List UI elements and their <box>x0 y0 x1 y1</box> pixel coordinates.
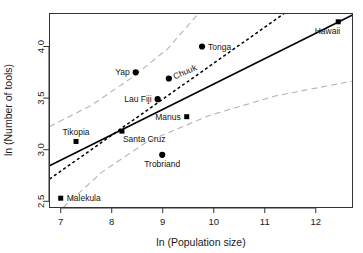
point-label-yap: Yap <box>115 67 130 77</box>
y-tick-label-3.0: 3.0 <box>35 143 46 156</box>
data-point-malekula <box>58 196 63 201</box>
data-point-trobriand <box>159 152 165 158</box>
data-point-chuuk <box>166 75 172 81</box>
x-tick-label-8: 8 <box>109 216 114 227</box>
y-axis-title: ln (Number of tools) <box>2 64 14 156</box>
data-point-manus <box>184 114 189 119</box>
x-tick-label-12: 12 <box>310 216 321 227</box>
data-point-tonga <box>199 43 205 49</box>
x-tick-label-9: 9 <box>160 216 165 227</box>
point-label-santa-cruz: Santa Cruz <box>123 134 166 144</box>
y-tick-label-2.5: 2.5 <box>35 195 46 208</box>
y-tick-label-3.5: 3.5 <box>35 92 46 105</box>
point-label-tikopia: Tikopia <box>62 127 89 137</box>
data-point-tikopia <box>74 139 79 144</box>
point-label-hawaii: Hawaii <box>315 26 341 36</box>
data-point-hawaii <box>336 19 341 24</box>
point-label-trobriand: Trobriand <box>144 159 180 169</box>
figure-background <box>0 0 363 253</box>
point-label-lau-fiji: Lau Fiji <box>124 94 152 104</box>
x-tick-label-10: 10 <box>208 216 219 227</box>
x-axis-title: ln (Population size) <box>156 236 245 248</box>
x-tick-label-7: 7 <box>58 216 63 227</box>
x-tick-label-11: 11 <box>260 216 270 227</box>
plot-canvas: MalekulaTikopiaSanta CruzYapLau FijiTrob… <box>0 0 363 253</box>
scatter-plot-figure: MalekulaTikopiaSanta CruzYapLau FijiTrob… <box>0 0 363 253</box>
data-point-santa-cruz <box>119 129 124 134</box>
point-label-manus: Manus <box>155 112 181 122</box>
point-label-malekula: Malekula <box>67 193 101 203</box>
y-tick-label-4.0: 4.0 <box>35 40 46 53</box>
data-point-yap <box>133 69 139 75</box>
data-point-lau-fiji <box>155 96 161 102</box>
point-label-tonga: Tonga <box>208 42 231 52</box>
